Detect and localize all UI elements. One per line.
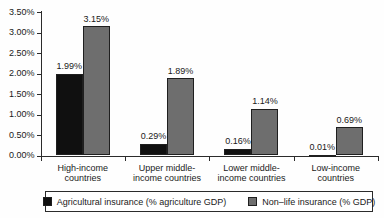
legend-item-nonlife: Non–life insurance (% GDP) [248, 197, 375, 207]
x-category-label: High-income countries [41, 163, 125, 184]
nonlife-insurance-bar-1 [167, 78, 194, 155]
x-axis-tick [209, 156, 210, 161]
nonlife-legend-swatch [248, 197, 257, 206]
y-axis-tick [37, 135, 41, 136]
agricultural-insurance-bar-0 [56, 74, 83, 156]
x-axis-tick [125, 156, 126, 161]
y-tick-label: 1.50% [0, 89, 35, 100]
chart-legend: Agricultural insurance (% agriculture GD… [45, 191, 373, 212]
y-tick-label: 3.00% [0, 27, 35, 38]
x-axis-tick [294, 156, 295, 161]
nonlife-insurance-value-label-1: 1.89% [155, 66, 206, 77]
x-category-label: Low-income countries [294, 163, 378, 184]
plot-area: 0.00%0.50%1.00%1.50%2.00%2.50%3.00%3.50%… [0, 0, 384, 218]
agricultural-insurance-bar-1 [140, 144, 167, 156]
y-tick-label: 2.00% [0, 68, 35, 79]
x-category-label: Lower middle- income countries [209, 163, 293, 184]
agricultural-legend-label: Agricultural insurance (% agriculture GD… [57, 197, 227, 207]
x-category-label: Upper middle- income countries [125, 163, 209, 184]
y-axis-tick [37, 74, 41, 75]
nonlife-insurance-bar-0 [83, 26, 110, 155]
y-axis-tick [37, 53, 41, 54]
y-axis-tick [37, 12, 41, 13]
nonlife-insurance-bar-2 [251, 109, 278, 156]
nonlife-insurance-value-label-0: 3.15% [71, 14, 122, 25]
insurance-penetration-bar-chart: 0.00%0.50%1.00%1.50%2.00%2.50%3.00%3.50%… [0, 0, 384, 218]
y-tick-label: 3.50% [0, 7, 35, 18]
y-axis-tick [37, 33, 41, 34]
x-axis-tick [41, 156, 42, 161]
y-tick-label: 0.50% [0, 130, 35, 141]
nonlife-legend-label: Non–life insurance (% GDP) [262, 197, 375, 207]
y-axis-line [41, 11, 42, 157]
y-axis-tick [37, 94, 41, 95]
legend-item-agricultural: Agricultural insurance (% agriculture GD… [43, 197, 227, 207]
y-axis-tick [37, 115, 41, 116]
nonlife-insurance-value-label-2: 1.14% [239, 96, 290, 107]
agricultural-insurance-bar-2 [224, 149, 251, 156]
agricultural-insurance-bar-3 [309, 155, 336, 157]
agricultural-legend-swatch [43, 197, 52, 206]
nonlife-insurance-bar-3 [336, 127, 363, 155]
x-axis-tick [378, 156, 379, 161]
y-tick-label: 1.00% [0, 109, 35, 120]
nonlife-insurance-value-label-3: 0.69% [324, 115, 375, 126]
y-tick-label: 2.50% [0, 48, 35, 59]
y-tick-label: 0.00% [0, 150, 35, 161]
